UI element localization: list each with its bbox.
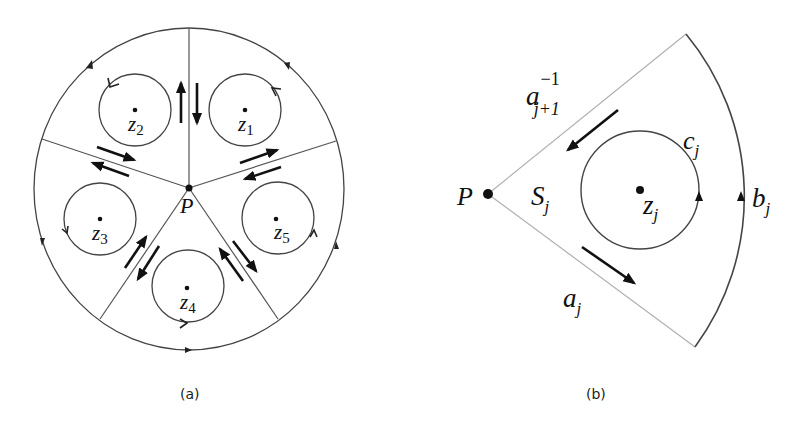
label-z4: z4: [179, 290, 196, 316]
label-a-j-plus-1-inverse: a−1j+1: [526, 69, 560, 119]
label-z5: z5: [273, 220, 290, 246]
circle-c-j-arrowhead: [695, 191, 703, 201]
label-z1: z1: [237, 112, 254, 138]
lower-edge-arrow: [582, 247, 634, 283]
arc-b-j: [686, 34, 744, 347]
vertex-label-p: P: [456, 182, 473, 211]
panel-b: P a−1j+1 cj Sj zj bj aj (b): [456, 34, 771, 402]
label-z3: z3: [91, 221, 108, 247]
label-a-j: aj: [563, 283, 582, 318]
panel-a: P: [34, 28, 344, 402]
caption-b: (b): [586, 386, 606, 402]
spokes: [42, 28, 336, 319]
spoke-arrows: [93, 83, 281, 281]
upper-edge-arrow: [568, 110, 618, 150]
label-z2: z2: [127, 112, 144, 138]
label-b-j: bj: [752, 183, 771, 218]
figure-canvas: P: [0, 0, 800, 421]
label-z-j: zj: [642, 190, 659, 224]
center-point-p: [186, 185, 193, 192]
center-label-p: P: [179, 193, 193, 218]
label-s-j: Sj: [531, 181, 550, 216]
edge-a-j: [488, 194, 695, 347]
vertex-p: [483, 189, 493, 199]
label-c-j: cj: [683, 126, 700, 160]
edge-a-j-plus-1: [488, 34, 686, 194]
caption-a: (a): [180, 386, 200, 402]
